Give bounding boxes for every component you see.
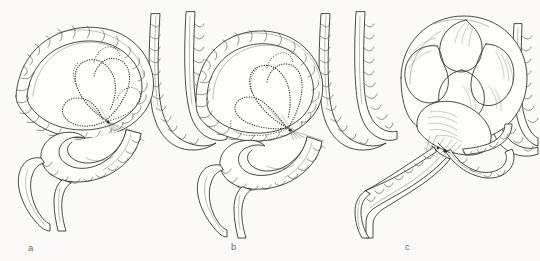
panel-b-sigmoid-lower-limb <box>220 137 322 190</box>
figure-plate: .ink { fill:none; stroke:#2b2b2b; stroke… <box>0 0 540 261</box>
panel-label-b: b <box>231 242 236 252</box>
panel-a-volvulus-loop-outer <box>16 26 154 140</box>
panel-a-sigmoid-lower-limb <box>41 130 141 183</box>
caption-fragment <box>352 254 538 261</box>
panel-b-volvulus-loop-outer <box>196 30 323 142</box>
illustration-canvas: .ink { fill:none; stroke:#2b2b2b; stroke… <box>0 0 540 261</box>
panel-b-descending-colon <box>319 12 397 150</box>
panel-c-illustration <box>355 16 538 238</box>
panel-b-illustration <box>196 12 397 238</box>
panel-label-a: a <box>28 243 33 253</box>
panel-label-c: c <box>405 242 410 252</box>
panel-a-illustration <box>16 12 227 231</box>
panel-c-proximal-limb <box>355 147 450 238</box>
